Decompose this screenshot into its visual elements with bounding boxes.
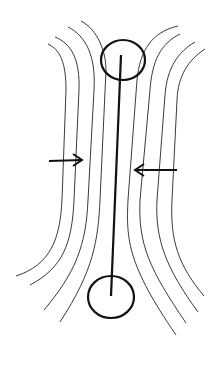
field-line — [44, 27, 94, 310]
field-line — [172, 49, 205, 296]
field-line — [140, 34, 186, 323]
left-field-lines — [16, 21, 106, 322]
field-diagram — [0, 0, 218, 372]
top-circle — [101, 40, 145, 80]
field-line — [157, 42, 198, 312]
central-rod — [111, 55, 121, 296]
arrow-pointing-left-icon — [135, 164, 177, 176]
field-line — [60, 21, 106, 322]
arrow-pointing-right-icon — [49, 154, 82, 166]
